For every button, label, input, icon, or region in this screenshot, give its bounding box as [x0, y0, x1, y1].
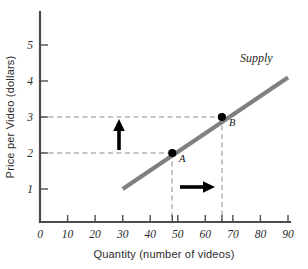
y-tick-label-4: 4 [27, 75, 33, 87]
x-tick-label-80: 80 [255, 228, 267, 240]
x-axis-tick-labels: 0 10 20 30 40 50 60 70 80 90 [37, 228, 294, 240]
x-tick-label-60: 60 [200, 228, 212, 240]
point-label-a: A [178, 153, 186, 164]
y-tick-label-2: 2 [27, 147, 33, 159]
quantity-increase-arrow [180, 181, 215, 193]
supply-chart: 1 2 3 4 5 0 10 20 30 40 50 [0, 0, 308, 269]
x-tick-label-10: 10 [62, 228, 74, 240]
x-tick-label-70: 70 [227, 228, 239, 240]
y-tick-label-3: 3 [26, 111, 33, 123]
guide-lines [40, 117, 222, 222]
price-arrow-head [113, 119, 125, 131]
supply-curve-line [123, 78, 288, 189]
point-label-b: B [229, 117, 236, 128]
supply-curve-label: Supply [240, 51, 273, 65]
x-tick-label-90: 90 [282, 228, 294, 240]
supply-curve-figure: 1 2 3 4 5 0 10 20 30 40 50 [0, 0, 308, 269]
x-axis-title: Quantity (number of videos) [93, 248, 234, 260]
x-tick-label-0: 0 [37, 228, 43, 240]
y-axis-ticks [40, 45, 48, 189]
x-tick-label-30: 30 [116, 228, 129, 240]
y-tick-label-5: 5 [27, 39, 33, 51]
x-tick-label-40: 40 [144, 228, 156, 240]
y-axis-title: Price per Video (dollars) [4, 56, 16, 179]
y-axis-tick-labels: 1 2 3 4 5 [26, 39, 33, 195]
price-increase-arrow [113, 119, 125, 150]
x-tick-label-50: 50 [172, 228, 184, 240]
point-marker-b [218, 113, 226, 121]
y-tick-label-1: 1 [27, 183, 33, 195]
x-tick-label-20: 20 [89, 228, 101, 240]
point-marker-a [168, 149, 176, 157]
quantity-arrow-head [203, 181, 215, 193]
